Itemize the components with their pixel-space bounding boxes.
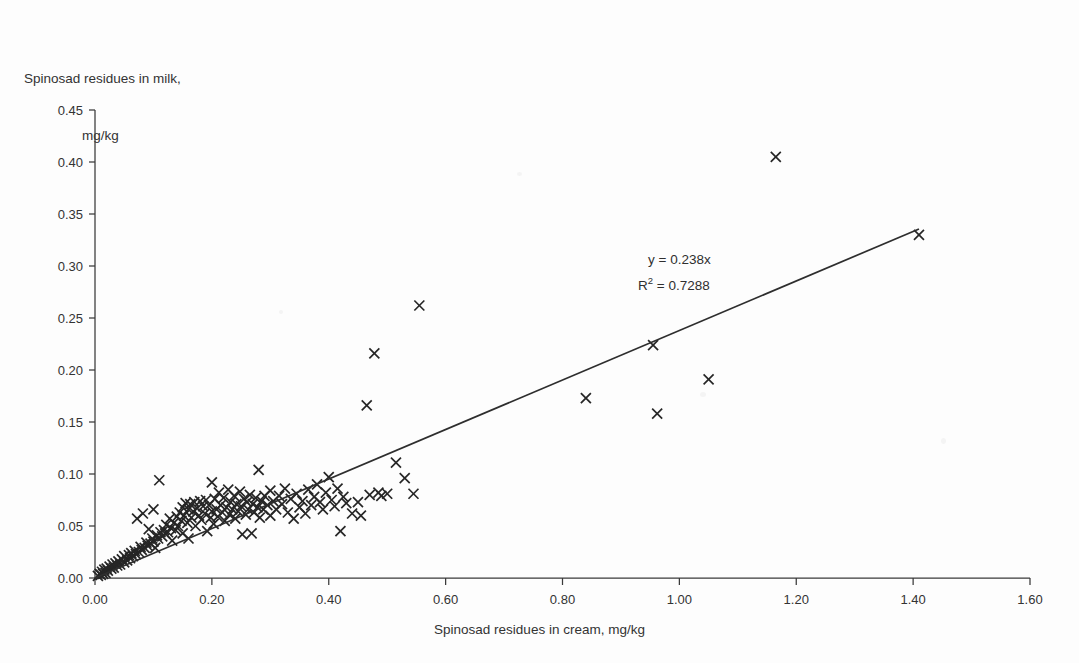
data-point [362,400,372,410]
data-point [154,475,164,485]
data-point [391,458,401,468]
data-point [300,509,310,519]
data-point [247,528,257,538]
data-point [280,484,290,494]
data-point [704,374,714,384]
data-point [144,524,154,534]
plot-canvas: 0.000.050.100.150.200.250.300.350.400.45… [0,0,1079,663]
chart-page: Spinosad residues in milk, mg/kg 0.000.0… [0,0,1079,663]
data-point [138,509,148,519]
x-tick-label: 1.60 [1017,592,1042,607]
x-tick-label: 0.80 [550,592,575,607]
r-squared-prefix: R [638,278,648,293]
y-tick-label: 0.40 [58,155,83,170]
data-point [414,301,424,311]
data-point-group [93,152,924,581]
regression-line [95,229,919,578]
r-squared-text: R2 = 0.7288 [638,270,711,296]
y-tick-label: 0.35 [58,207,83,222]
x-tick-label: 1.00 [667,592,692,607]
y-tick-label: 0.15 [58,415,83,430]
x-tick-group: 0.000.200.400.600.801.001.201.401.60 [82,578,1042,607]
data-point [400,473,410,483]
data-point [356,511,366,521]
data-point [148,504,158,514]
data-point [333,484,343,494]
y-tick-label: 0.05 [58,519,83,534]
data-point [353,497,363,507]
data-point [254,465,264,475]
y-tick-label: 0.10 [58,467,83,482]
x-tick-label: 0.00 [82,592,107,607]
y-tick-label: 0.45 [58,103,83,118]
x-tick-label: 0.60 [433,592,458,607]
equation-text: y = 0.238x [648,249,711,270]
y-tick-group: 0.000.050.100.150.200.250.300.350.400.45 [58,103,95,586]
y-tick-label: 0.20 [58,363,83,378]
data-point [265,486,275,496]
data-point [408,489,418,499]
x-tick-label: 0.20 [199,592,224,607]
x-tick-label: 1.20 [784,592,809,607]
data-point [255,513,265,523]
scatter-plot: 0.000.050.100.150.200.250.300.350.400.45… [0,0,1079,663]
data-point [369,348,379,358]
data-point [335,526,345,536]
r-squared-value: = 0.7288 [653,278,710,293]
data-point [771,152,781,162]
regression-annotation: y = 0.238x R2 = 0.7288 [648,249,711,296]
y-tick-label: 0.30 [58,259,83,274]
data-point [365,490,375,500]
y-tick-label: 0.25 [58,311,83,326]
data-point [581,393,591,403]
trend-line-group [95,229,919,578]
y-tick-label: 0.00 [58,571,83,586]
x-tick-label: 1.40 [900,592,925,607]
x-axis-title: Spinosad residues in cream, mg/kg [0,622,1079,637]
data-point [321,488,331,498]
data-point [237,529,247,539]
data-point [652,409,662,419]
data-point [289,514,299,524]
data-point [207,477,217,487]
x-tick-label: 0.40 [316,592,341,607]
data-point [347,509,357,519]
